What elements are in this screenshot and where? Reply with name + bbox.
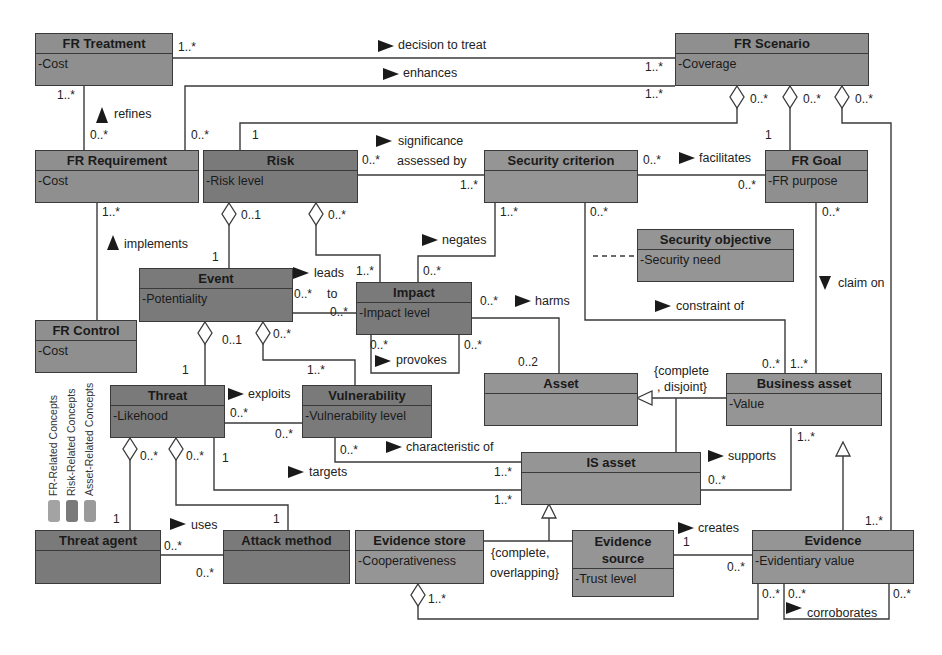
multiplicity: 0..* (328, 208, 346, 222)
class-risk[interactable]: Risk -Risk level (203, 150, 358, 203)
class-attribute: -Vulnerability level (303, 406, 431, 426)
label-corroborates: corroborates (807, 606, 877, 620)
label-leads: leads (314, 266, 344, 280)
class-attribute: -Potentiality (140, 289, 292, 309)
direction-arrow-icon (293, 267, 309, 279)
label-enhances: enhances (403, 66, 457, 80)
direction-arrow-icon (107, 235, 119, 250)
class-name: FR Scenario (676, 34, 868, 54)
class-attribute: -Coverage (676, 54, 868, 74)
class-attribute (485, 394, 637, 400)
aggregation-diamond-icon (222, 203, 236, 225)
generalization-arrow-icon (542, 504, 556, 518)
class-name: Evidence source (573, 531, 673, 569)
multiplicity: 1..* (494, 493, 512, 507)
label-targets: targets (309, 465, 347, 479)
class-name: Impact (357, 283, 471, 303)
class-fr-control[interactable]: FR Control -Cost (35, 320, 137, 373)
direction-arrow-icon (96, 107, 108, 123)
multiplicity: 1..* (356, 264, 374, 278)
multiplicity: 0..* (803, 92, 821, 106)
class-name: Attack method (224, 531, 349, 551)
multiplicity: 1..* (494, 465, 512, 479)
class-asset[interactable]: Asset (484, 373, 638, 426)
class-name: FR Control (36, 321, 136, 341)
class-attribute: -Cost (36, 341, 136, 361)
generalization-arrow-icon (637, 391, 652, 405)
multiplicity: 0..* (370, 338, 388, 352)
direction-arrow-icon (378, 40, 394, 52)
class-attack-method[interactable]: Attack method (223, 530, 350, 584)
class-impact[interactable]: Impact -Impact level (356, 282, 472, 335)
agg-scenario-risk (240, 108, 737, 150)
class-attribute: -Value (727, 394, 881, 414)
class-name: Evidence store (356, 531, 483, 551)
multiplicity: 0..* (480, 294, 498, 308)
class-fr-goal[interactable]: FR Goal -FR purpose (765, 150, 868, 203)
class-security-criterion[interactable]: Security criterion (484, 150, 638, 203)
legend-swatch-fr (48, 500, 60, 522)
direction-arrow-icon (386, 441, 402, 453)
class-security-objective[interactable]: Security objective -Security need (637, 229, 794, 282)
class-name: FR Requirement (36, 151, 198, 171)
assoc-constraint-of (585, 202, 785, 373)
aggregation-diamond-icon (123, 438, 137, 460)
class-fr-requirement[interactable]: FR Requirement -Cost (35, 150, 199, 203)
legend-label-asset: Asset-Related Concepts (83, 383, 95, 496)
label-assessed-by: assessed by (397, 154, 466, 168)
aggregation-diamond-icon (411, 584, 425, 606)
aggregation-diamond-icon (309, 203, 323, 225)
class-attribute: -Evidentiary value (753, 551, 913, 571)
multiplicity: 1 (182, 363, 189, 377)
class-name: Vulnerability (303, 386, 431, 406)
class-evidence-source[interactable]: Evidence source -Trust level (572, 530, 674, 597)
multiplicity: 1 (113, 512, 120, 526)
multiplicity: 1..* (790, 357, 808, 371)
class-vulnerability[interactable]: Vulnerability -Vulnerability level (302, 385, 432, 438)
class-event[interactable]: Event -Potentiality (139, 268, 293, 322)
direction-arrow-icon (288, 466, 304, 478)
class-name: Event (140, 269, 292, 289)
class-business-asset[interactable]: Business asset -Value (726, 373, 882, 426)
multiplicity: 1 (212, 250, 219, 264)
label-to: to (327, 287, 337, 301)
multiplicity: 0..* (362, 153, 380, 167)
class-is-asset[interactable]: IS asset (521, 452, 701, 505)
label-refines: refines (114, 107, 152, 121)
class-attribute: -FR purpose (766, 171, 867, 191)
class-attribute (36, 551, 160, 557)
direction-arrow-icon (422, 234, 438, 246)
multiplicity: 1..* (865, 514, 883, 528)
multiplicity: 0..* (423, 264, 441, 278)
direction-arrow-icon (786, 602, 802, 614)
label-characteristic-of: characteristic of (406, 440, 494, 454)
label-facilitates: facilitates (699, 151, 751, 165)
class-name: Threat (111, 386, 224, 406)
label-harms: harms (535, 294, 570, 308)
label-implements: implements (124, 237, 188, 251)
class-name: FR Treatment (36, 34, 172, 54)
multiplicity: 0..1 (241, 208, 261, 222)
class-attribute: -Trust level (573, 569, 673, 589)
multiplicity: 0..* (191, 128, 209, 142)
class-name: IS asset (522, 453, 700, 473)
aggregation-diamond-icon (169, 438, 183, 460)
class-name: Risk (204, 151, 357, 171)
label-exploits: exploits (248, 387, 290, 401)
class-fr-scenario[interactable]: FR Scenario -Coverage (675, 33, 869, 86)
class-threat[interactable]: Threat -Likehood (110, 385, 225, 438)
class-threat-agent[interactable]: Threat agent (35, 530, 161, 584)
class-name: Security criterion (485, 151, 637, 171)
multiplicity: 0..* (750, 92, 768, 106)
multiplicity: 0..* (330, 305, 348, 319)
class-name: Asset (485, 374, 637, 394)
class-fr-treatment[interactable]: FR Treatment -Cost (35, 33, 173, 86)
class-evidence-store[interactable]: Evidence store -Cooperativeness (355, 530, 484, 584)
multiplicity: 0..* (762, 587, 780, 601)
multiplicity: 1 (683, 535, 690, 549)
label-constraint-of: constraint of (676, 299, 744, 313)
label-significance: significance (398, 134, 463, 148)
multiplicity: 0..* (788, 587, 806, 601)
legend-label-risk: Risk-Related Concepts (65, 389, 77, 496)
class-evidence[interactable]: Evidence -Evidentiary value (752, 530, 914, 584)
